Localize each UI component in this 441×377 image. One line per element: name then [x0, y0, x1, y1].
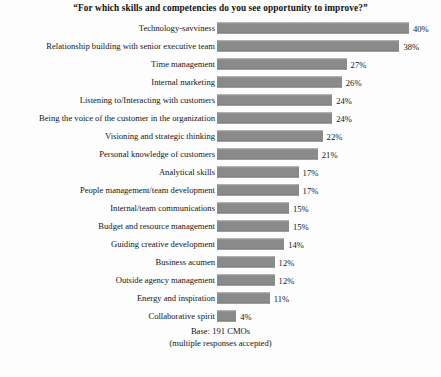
bar-category-label: Technology-savviness [139, 23, 215, 33]
bar-track: 11% [217, 293, 417, 304]
bar-row: Personal knowledge of customers21% [0, 145, 441, 163]
bar-value-label: 22% [327, 131, 343, 141]
bar-row: Visioning and strategic thinking22% [0, 127, 441, 145]
bar-fill [217, 221, 289, 232]
footnote-base-line: Base: 191 CMOs [0, 326, 441, 338]
bar-track: 24% [217, 113, 417, 124]
bar-row: Collaborative spirit4% [0, 307, 441, 325]
bar-track: 15% [217, 203, 417, 214]
bar-category-label: Time management [151, 59, 215, 69]
bar-category-label: Personal knowledge of customers [99, 149, 215, 159]
bar-fill [217, 149, 318, 160]
bar-value-label: 14% [288, 239, 304, 249]
bar-fill [217, 59, 347, 70]
footnote-note-line: (multiple responses accepted) [0, 338, 441, 350]
bar-category-label: Internal/team communications [110, 203, 215, 213]
bar-track: 27% [217, 59, 417, 70]
bar-category-label: Internal marketing [151, 77, 215, 87]
bar-row: Analytical skills17% [0, 163, 441, 181]
bar-row: Internal marketing26% [0, 73, 441, 91]
bar-fill [217, 257, 275, 268]
bar-fill [217, 131, 323, 142]
bar-fill [217, 23, 409, 34]
bar-category-label: Relationship building with senior execut… [46, 41, 215, 51]
bar-value-label: 11% [274, 293, 289, 303]
bar-fill [217, 113, 332, 124]
bar-fill [217, 203, 289, 214]
bar-fill [217, 167, 299, 178]
bar-value-label: 17% [303, 167, 319, 177]
bar-track: 15% [217, 221, 417, 232]
bar-row: People management/team development17% [0, 181, 441, 199]
bar-value-label: 15% [293, 203, 309, 213]
bar-value-label: 21% [322, 149, 338, 159]
bar-row: Guiding creative development14% [0, 235, 441, 253]
bar-track: 4% [217, 311, 417, 322]
bar-row: Time management27% [0, 55, 441, 73]
bar-track: 12% [217, 275, 417, 286]
bar-category-label: Budget and resource management [98, 221, 215, 231]
bar-track: 24% [217, 95, 417, 106]
bar-fill [217, 239, 284, 250]
bar-track: 22% [217, 131, 417, 142]
bar-row: Relationship building with senior execut… [0, 37, 441, 55]
bar-category-label: Business acumen [156, 257, 215, 267]
bar-value-label: 24% [336, 113, 352, 123]
bar-value-label: 4% [240, 311, 251, 321]
bar-track: 38% [217, 41, 417, 52]
bar-row: Internal/team communications15% [0, 199, 441, 217]
bar-track: 14% [217, 239, 417, 250]
bar-category-label: Visioning and strategic thinking [105, 131, 215, 141]
bar-category-label: Listening to/Interacting with customers [80, 95, 215, 105]
bar-row: Technology-savviness40% [0, 19, 441, 37]
bar-fill [217, 95, 332, 106]
bar-row: Outside agency management12% [0, 271, 441, 289]
bar-track: 17% [217, 167, 417, 178]
bar-value-label: 12% [279, 257, 295, 267]
bar-track: 21% [217, 149, 417, 160]
bar-category-label: Being the voice of the customer in the o… [39, 113, 215, 123]
bar-value-label: 27% [351, 59, 367, 69]
bar-row: Business acumen12% [0, 253, 441, 271]
chart-footnote: Base: 191 CMOs (multiple responses accep… [0, 326, 441, 349]
bar-track: 12% [217, 257, 417, 268]
bar-category-label: Outside agency management [116, 275, 215, 285]
bar-row: Being the voice of the customer in the o… [0, 109, 441, 127]
bar-value-label: 40% [413, 23, 429, 33]
bar-category-label: People management/team development [80, 185, 215, 195]
bar-track: 40% [217, 23, 417, 34]
bar-chart: “For which skills and competencies do yo… [0, 0, 441, 377]
bar-value-label: 26% [346, 77, 362, 87]
bar-category-label: Energy and inspiration [137, 293, 215, 303]
bar-track: 17% [217, 185, 417, 196]
bar-category-label: Analytical skills [159, 167, 215, 177]
bar-fill [217, 77, 342, 88]
bar-row: Budget and resource management15% [0, 217, 441, 235]
bar-fill [217, 311, 236, 322]
bar-category-label: Guiding creative development [111, 239, 215, 249]
bar-value-label: 12% [279, 275, 295, 285]
bar-row: Listening to/Interacting with customers2… [0, 91, 441, 109]
bar-value-label: 17% [303, 185, 319, 195]
bar-fill [217, 41, 399, 52]
bar-value-label: 15% [293, 221, 309, 231]
bar-fill [217, 275, 275, 286]
chart-title: “For which skills and competencies do yo… [0, 3, 441, 13]
bar-value-label: 24% [336, 95, 352, 105]
bar-track: 26% [217, 77, 417, 88]
bar-row: Energy and inspiration11% [0, 289, 441, 307]
bar-value-label: 38% [403, 41, 419, 51]
bar-fill [217, 293, 270, 304]
bar-category-label: Collaborative spirit [148, 311, 215, 321]
bar-fill [217, 185, 299, 196]
chart-plot-area: Technology-savviness40%Relationship buil… [0, 19, 441, 325]
